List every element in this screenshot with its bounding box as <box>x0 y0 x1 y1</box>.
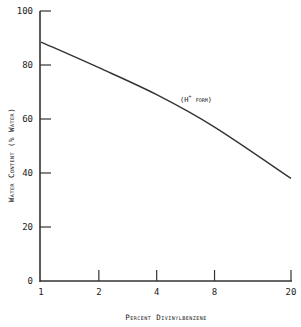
x-tick-label: 1 <box>38 287 43 297</box>
x-tick-label: 4 <box>154 287 159 297</box>
x-ticks: 124820 <box>38 270 296 297</box>
y-tick-label: 20 <box>22 222 33 232</box>
x-tick-label: 2 <box>96 287 101 297</box>
y-tick-label: 40 <box>22 168 33 178</box>
y-tick-label: 0 <box>28 276 33 286</box>
x-tick-label: 20 <box>286 287 297 297</box>
x-tick-label: 8 <box>212 287 217 297</box>
y-axis-title: Water Content (% Water) <box>7 108 16 202</box>
data-line-h-form <box>41 42 291 178</box>
y-tick-label: 60 <box>22 114 33 124</box>
y-tick-label: 80 <box>22 60 33 70</box>
y-ticks: 020406080100 <box>17 6 51 286</box>
x-axis-title: Percent Divinylbenzene <box>125 313 207 322</box>
axes <box>40 11 292 282</box>
annotation-h-form: (H+ form) <box>180 93 212 104</box>
chart: 020406080100 124820 (H+ form) Percent Di… <box>0 0 301 327</box>
y-tick-label: 100 <box>17 6 33 16</box>
